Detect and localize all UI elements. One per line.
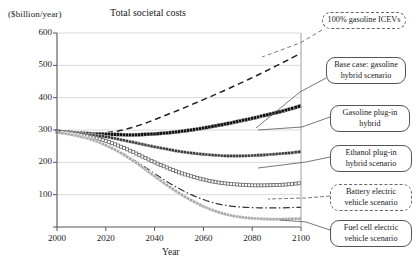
leader-gas-phev <box>258 117 330 130</box>
x-axis-label: Year <box>162 247 180 257</box>
x-tick-label: 2060 <box>183 233 223 243</box>
y-tick-label: 100 <box>18 189 52 199</box>
callout-gasoline-plugin-hybrid: Gasoline plug-in hybrid <box>330 105 410 132</box>
y-tick-label: 300 <box>18 124 52 134</box>
x-tick-label: 2080 <box>232 233 272 243</box>
y-tick-label: 600 <box>18 27 52 37</box>
y-tick-marks <box>53 33 57 227</box>
series-5 <box>56 131 301 221</box>
leader-base <box>256 78 326 128</box>
callout-ethanol-plugin-hybrid: Ethanol plug-in hybrid scenario <box>330 145 412 172</box>
leader-icev <box>262 30 322 57</box>
y-tick-label: 200 <box>18 156 52 166</box>
series-4 <box>57 132 301 208</box>
callout-battery-electric: Battery electric vehicle scenario <box>330 184 412 211</box>
x-tick-label: 2040 <box>135 233 175 243</box>
series-2 <box>56 130 301 158</box>
leader-fcv <box>280 220 330 230</box>
leader-bev <box>268 196 330 199</box>
x-tick-label: 2020 <box>86 233 126 243</box>
callout-base-case: Base case: gasoline hybrid scenario <box>326 57 406 84</box>
callout-fuel-cell-electric: Fuel cell electric vehicle scenario <box>330 220 412 247</box>
y-tick-label: 500 <box>18 59 52 69</box>
series-3 <box>56 130 302 187</box>
x-tick-marks <box>57 227 301 231</box>
chart-figure: ($billion/year) Total societal costs 100… <box>0 0 416 266</box>
x-tick-label: 2100 <box>281 233 321 243</box>
series-layer <box>55 53 301 221</box>
y-tick-label: 400 <box>18 92 52 102</box>
callout-icev: 100% gasoline ICEVs <box>322 12 406 29</box>
x-tick-label: 2000 <box>37 233 77 243</box>
